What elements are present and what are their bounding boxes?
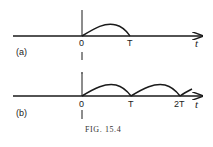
tick-label-T-a: T — [127, 38, 133, 48]
pulse-arc-b1 — [82, 85, 131, 96]
pulse-arc-a — [82, 24, 130, 36]
pulse-arc-b3 — [180, 89, 192, 96]
panel-a: 0 T t (a) — [13, 10, 202, 74]
tick-label-2T-b: 2T — [174, 99, 185, 109]
figure-canvas: 0 T t (a) 0 T 2T t (b) FIG. 15.4 — [0, 0, 213, 147]
axis-label-t-b: t — [195, 98, 199, 110]
panel-label-a: (a) — [16, 47, 27, 57]
panel-label-b: (b) — [16, 108, 27, 118]
figure-caption: FIG. 15.4 — [85, 125, 121, 134]
tick-label-T-b: T — [128, 99, 134, 109]
panel-b: 0 T 2T t (b) — [13, 72, 202, 119]
origin-label-a: 0 — [79, 38, 84, 48]
origin-label-b: 0 — [79, 99, 84, 109]
pulse-arc-b2 — [131, 85, 180, 96]
axis-label-t-a: t — [195, 37, 199, 49]
